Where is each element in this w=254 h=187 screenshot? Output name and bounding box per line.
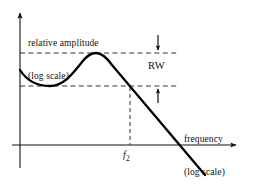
- x-axis-label-line2: (log scale): [184, 167, 225, 178]
- x-axis-label-line1: frequency: [184, 134, 225, 145]
- y-axis-label: relative amplitude (log scale): [28, 16, 99, 104]
- cutoff-frequency-subscript: 2: [126, 154, 130, 163]
- figure-container: relative amplitude (log scale) frequency…: [0, 0, 254, 187]
- x-axis-label: frequency (log scale): [184, 112, 225, 187]
- y-axis-label-line1: relative amplitude: [28, 38, 99, 49]
- cutoff-frequency-label: f2: [123, 149, 130, 163]
- y-axis-label-line2: (log scale): [28, 71, 99, 82]
- ripple-width-label: RW: [148, 60, 165, 71]
